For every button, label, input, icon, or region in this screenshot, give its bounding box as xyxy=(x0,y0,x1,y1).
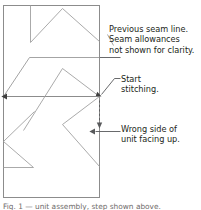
annotation-previous-seam-line: Previous seam line. Seam allowances not … xyxy=(109,24,194,55)
figure-caption-clipped: Fig. 1 — unit assembly, step shown above… xyxy=(3,202,201,210)
annotation-start-stitching-2: stitching. xyxy=(121,84,159,94)
stitch-direction-arrowhead xyxy=(97,123,102,129)
start-stitching-arrowhead xyxy=(96,92,102,97)
annotation-start-stitching: Start stitching. xyxy=(121,74,159,95)
annotation-wrong-side-2: unit facing up. xyxy=(121,134,180,144)
previous-seam-line-upper xyxy=(4,58,100,97)
annotation-start-stitching-1: Start xyxy=(121,74,159,84)
quilting-diagram-figure: Previous seam line. Seam allowances not … xyxy=(0,0,201,210)
annotation-previous-seam-line-1: Previous seam line. xyxy=(109,24,194,34)
patch-edge-chevron-middle xyxy=(24,69,100,131)
annotation-wrong-side-1: Wrong side of xyxy=(121,124,180,134)
seam-start-arrowhead-left xyxy=(1,94,7,100)
leader-start-stitching xyxy=(102,79,121,95)
annotation-previous-seam-line-2: Seam allowances xyxy=(109,34,194,44)
wrong-side-arrowhead xyxy=(89,129,95,135)
fabric-outline-rect xyxy=(4,6,100,198)
annotation-previous-seam-line-3: not shown for clarity. xyxy=(109,45,194,55)
patch-edge-chevron-top xyxy=(31,9,100,43)
annotation-wrong-side: Wrong side of unit facing up. xyxy=(121,124,180,145)
